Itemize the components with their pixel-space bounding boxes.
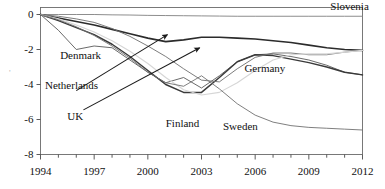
chart-figure: 0-2-4-6-8 1994199720002003200620092012 S… xyxy=(0,0,385,189)
series-label-denmark: Denmark xyxy=(60,49,101,61)
series-layer xyxy=(41,15,363,131)
y-tick-label: -4 xyxy=(24,78,34,90)
stray-mark-layer: ' xyxy=(9,68,11,78)
x-tick-label: 2006 xyxy=(244,165,267,177)
series-label-germany: Germany xyxy=(244,62,285,74)
series-label-uk: UK xyxy=(67,110,83,122)
series-label-sweden: Sweden xyxy=(223,120,258,132)
x-tick-label: 1997 xyxy=(83,165,106,177)
x-axis: 1994199720002003200620092012 xyxy=(30,155,374,177)
y-tick-label: -8 xyxy=(24,148,34,160)
stray-mark: ' xyxy=(9,68,11,78)
x-tick-label: 2000 xyxy=(137,165,160,177)
y-axis: 0-2-4-6-8 xyxy=(24,8,40,160)
series-label-netherlands: Netherlands xyxy=(45,79,98,91)
x-tick-label: 2009 xyxy=(298,165,321,177)
line-chart-canvas: 0-2-4-6-8 1994199720002003200620092012 S… xyxy=(0,0,385,189)
x-tick-label: 2003 xyxy=(191,165,214,177)
x-tick-label: 2012 xyxy=(352,165,374,177)
x-tick-label: 1994 xyxy=(30,165,53,177)
series-label-finland: Finland xyxy=(166,117,200,129)
series-label-slovenia: Slovenia xyxy=(330,0,369,12)
y-tick-label: 0 xyxy=(28,8,34,20)
series-line-slovenia xyxy=(41,15,363,17)
y-tick-label: -2 xyxy=(24,43,33,55)
y-tick-label: -6 xyxy=(24,113,34,125)
